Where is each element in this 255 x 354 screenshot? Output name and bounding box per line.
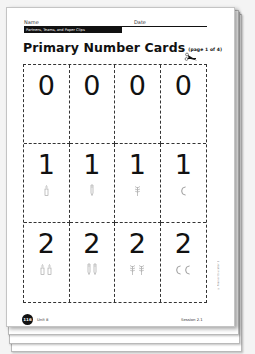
page-number-badge: 116 <box>22 314 33 325</box>
card-icons <box>24 181 69 193</box>
card-icons <box>70 260 115 272</box>
card-icons <box>115 181 160 193</box>
footer-session: Session 2.1 <box>181 317 203 322</box>
number-card: 2 <box>70 223 116 302</box>
card-digit: 2 <box>115 229 160 259</box>
moon-icon <box>174 260 183 279</box>
crayon-icon <box>89 181 95 200</box>
number-card: 1 <box>161 144 207 223</box>
number-card: 2 <box>115 223 161 302</box>
card-icons <box>161 260 207 272</box>
card-digit: 2 <box>70 229 115 259</box>
number-card: 1 <box>24 144 70 223</box>
moon-icon <box>183 260 192 279</box>
flower-icon <box>137 260 146 279</box>
unit-banner: Partners, Teams, and Paper Clips <box>24 27 122 33</box>
card-digit: 1 <box>115 150 160 180</box>
card-digit: 2 <box>161 229 207 259</box>
number-card: 1 <box>115 144 161 223</box>
number-card: 0 <box>70 65 116 144</box>
card-digit: 0 <box>115 71 160 101</box>
card-digit: 2 <box>24 229 69 259</box>
number-card: 0 <box>24 65 70 144</box>
worksheet-page: Name Date Partners, Teams, and Paper Cli… <box>6 7 235 327</box>
copyright-note: © Pearson Education 2 <box>217 248 223 290</box>
candle-icon <box>43 181 50 200</box>
card-icons <box>115 260 160 272</box>
crayon-icon <box>86 260 92 279</box>
number-card: 0 <box>115 65 161 144</box>
card-digit: 0 <box>70 71 115 101</box>
number-card: 2 <box>161 223 207 302</box>
card-icons <box>161 181 207 193</box>
card-digit: 0 <box>161 71 207 101</box>
candle-icon <box>46 260 53 279</box>
card-digit: 0 <box>24 71 69 101</box>
footer-unit: Unit 8 <box>37 317 48 322</box>
number-card: 2 <box>24 223 70 302</box>
card-digit: 1 <box>161 150 207 180</box>
scissors-icon <box>184 52 198 64</box>
card-digit: 1 <box>70 150 115 180</box>
card-icons <box>24 260 69 272</box>
number-card: 1 <box>70 144 116 223</box>
card-icons <box>70 181 115 193</box>
title-main: Primary Number Cards <box>23 40 185 55</box>
moon-icon <box>179 181 188 200</box>
number-card-grid: 000011112222 <box>23 64 207 303</box>
card-digit: 1 <box>24 150 69 180</box>
flower-icon <box>133 181 142 200</box>
date-label: Date <box>134 19 146 25</box>
name-label: Name <box>24 19 39 25</box>
flower-icon <box>128 260 137 279</box>
number-card: 0 <box>161 65 207 144</box>
crayon-icon <box>92 260 98 279</box>
